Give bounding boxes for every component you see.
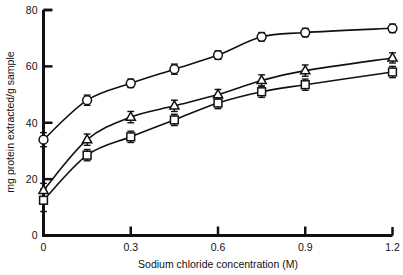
data-point-circle <box>126 79 135 88</box>
chart-container: 020406080 00.30.60.91.2 Sodium chloride … <box>0 0 403 275</box>
x-axis-title: Sodium chloride concentration (M) <box>138 258 298 270</box>
data-point-square <box>214 99 222 107</box>
chart-background <box>0 0 403 275</box>
data-point-circle <box>301 28 310 37</box>
data-point-square <box>83 151 91 159</box>
data-point-square <box>258 88 266 96</box>
data-point-circle <box>388 24 397 33</box>
y-tick-label: 80 <box>26 4 38 16</box>
y-tick-label: 40 <box>26 117 38 129</box>
x-tick-label: 0.6 <box>211 241 226 253</box>
data-point-circle <box>39 135 48 144</box>
x-tick-label: 0.9 <box>298 241 313 253</box>
data-point-circle <box>83 96 92 105</box>
data-point-square <box>389 68 397 76</box>
x-tick-label: 0 <box>41 241 47 253</box>
y-tick-label: 60 <box>26 60 38 72</box>
data-point-circle <box>170 65 179 74</box>
data-point-square <box>301 81 309 89</box>
data-point-circle <box>257 32 266 41</box>
y-tick-label: 20 <box>26 173 38 185</box>
data-point-circle <box>214 51 223 60</box>
x-tick-label: 0.3 <box>123 241 138 253</box>
data-point-square <box>170 116 178 124</box>
data-point-square <box>127 133 135 141</box>
x-tick-label: 1.2 <box>385 241 400 253</box>
protein-extraction-line-chart: 020406080 00.30.60.91.2 Sodium chloride … <box>0 0 403 275</box>
data-point-square <box>40 196 48 204</box>
y-tick-label: 0 <box>32 229 38 241</box>
y-axis-title: mg protein extracted/g sample <box>4 51 16 192</box>
